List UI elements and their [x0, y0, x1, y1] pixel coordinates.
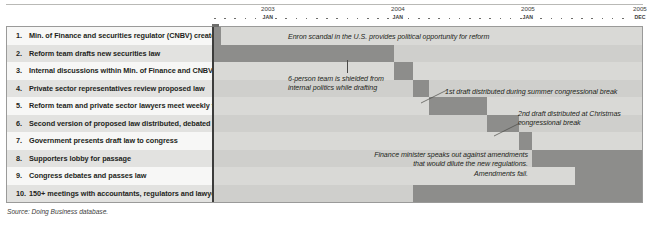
axis-tick-dot — [591, 18, 593, 20]
timeline-axis: 2003JAN2004JAN2005JAN2005DEC — [213, 5, 643, 25]
task-row-number: 8. — [16, 154, 29, 163]
axis-tick-dot — [459, 18, 461, 20]
axis-tick-dot — [275, 18, 277, 20]
task-row-number: 3. — [16, 66, 29, 75]
task-row-text: Government presents draft law to congres… — [29, 136, 178, 145]
task-row-text: Second version of proposed law distribut… — [29, 119, 211, 128]
axis-tick-dot — [408, 18, 410, 20]
leader-line-second-draft — [494, 121, 522, 137]
annotation-first-draft: 1st draft distributed during summer cong… — [445, 88, 617, 97]
axis-year-label: 2005 — [633, 5, 647, 12]
axis-tick-dot — [602, 18, 604, 20]
axis-tick-dot — [469, 18, 471, 20]
annotation-finance-minister: Finance minister speaks out against amen… — [318, 151, 528, 179]
gantt-row — [214, 62, 642, 80]
task-label-column: 1.Min. of Finance and securities regulat… — [7, 27, 212, 202]
axis-tick-dot — [438, 18, 440, 20]
axis-tick-dot — [581, 18, 583, 20]
axis-tick-dot — [418, 18, 420, 20]
task-row-number: 1. — [16, 31, 29, 40]
task-row-number: 10. — [16, 189, 29, 198]
axis-tick-dot — [224, 18, 226, 20]
task-row-text: Reform team drafts new securities law — [29, 49, 160, 58]
axis-tick-dot — [561, 18, 563, 20]
axis-tick-dot — [500, 18, 502, 20]
task-row-label: 1.Min. of Finance and securities regulat… — [7, 27, 212, 45]
axis-year-label: 2004 — [391, 5, 405, 12]
gantt-chart-figure: 2003JAN2004JAN2005JAN2005DEC 1.Min. of F… — [0, 0, 649, 232]
axis-month-label: JAN — [523, 14, 533, 20]
task-row-number: 5. — [16, 101, 29, 110]
axis-month-label: JAN — [263, 14, 273, 20]
gantt-bar — [214, 45, 395, 63]
task-row-label: 10.150+ meetings with accountants, regul… — [7, 185, 212, 203]
task-row-number: 9. — [16, 171, 29, 180]
axis-tick-dot — [540, 18, 542, 20]
task-row-label: 3.Internal discussions within Min. of Fi… — [7, 62, 212, 80]
gantt-bar — [575, 167, 642, 185]
axis-tick-dot — [612, 18, 614, 20]
axis-tick-dot — [520, 18, 522, 20]
task-row-text: Private sector representatives review pr… — [29, 84, 205, 93]
axis-tick-dot — [428, 18, 430, 20]
task-row-text: Supporters lobby for passage — [29, 154, 131, 163]
task-row-label: 5.Reform team and private sector lawyers… — [7, 97, 212, 115]
axis-tick-dot — [387, 18, 389, 20]
leader-line-first-draft — [421, 89, 447, 104]
axis-month-label: DEC — [635, 14, 646, 20]
task-row-label: 4.Private sector representatives review … — [7, 80, 212, 98]
axis-tick-dot — [245, 18, 247, 20]
task-row-number: 2. — [16, 49, 29, 58]
axis-tick-dot — [510, 18, 512, 20]
task-row-label: 8.Supporters lobby for passage — [7, 150, 212, 168]
task-row-number: 4. — [16, 84, 29, 93]
task-row-label: 6.Second version of proposed law distrib… — [7, 115, 212, 133]
axis-tick-dot — [489, 18, 491, 20]
axis-tick-dot — [306, 18, 308, 20]
axis-month-label: JAN — [393, 14, 403, 20]
task-row-number: 7. — [16, 136, 29, 145]
axis-tick-dot — [377, 18, 379, 20]
axis-tick-dot — [367, 18, 369, 20]
axis-tick-dot — [449, 18, 451, 20]
axis-year-label: 2005 — [521, 5, 535, 12]
axis-tick-dot — [622, 18, 624, 20]
leader-line-six-person-team — [347, 60, 348, 73]
axis-tick-dot — [336, 18, 338, 20]
axis-tick-dot — [571, 18, 573, 20]
source-note: Source: Doing Business database. — [7, 208, 108, 215]
axis-tick-dot — [326, 18, 328, 20]
axis-year-label: 2003 — [261, 5, 275, 12]
axis-tick-dot — [357, 18, 359, 20]
annotation-second-draft: 2nd draft distributed at Christmas congr… — [518, 110, 621, 129]
axis-tick-dot — [285, 18, 287, 20]
gantt-bar — [532, 150, 642, 168]
axis-tick-dot — [347, 18, 349, 20]
task-row-label: 7.Government presents draft law to congr… — [7, 132, 212, 150]
axis-tick-dot — [551, 18, 553, 20]
gantt-bar — [214, 27, 221, 45]
axis-tick-dot — [316, 18, 318, 20]
annotation-six-person-team: 6-person team is shielded from internal … — [288, 75, 384, 94]
annotation-enron: Enron scandal in the U.S. provides polit… — [288, 33, 489, 42]
gantt-bar — [394, 62, 413, 80]
task-row-label: 9.Congress debates and passes law — [7, 167, 212, 185]
axis-tick-dot — [479, 18, 481, 20]
task-row-text: Congress debates and passes law — [29, 171, 146, 180]
axis-tick-dot — [255, 18, 257, 20]
task-row-label: 2.Reform team drafts new securities law — [7, 45, 212, 63]
axis-tick-dot — [234, 18, 236, 20]
axis-tick-dot — [296, 18, 298, 20]
gantt-row — [214, 132, 642, 150]
task-row-number: 6. — [16, 119, 29, 128]
gantt-bar — [413, 185, 642, 203]
axis-tick-dot — [214, 18, 216, 20]
